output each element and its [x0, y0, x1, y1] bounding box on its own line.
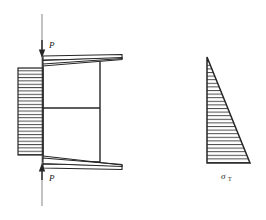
load-arrow-top: [39, 40, 45, 58]
top-stress-wedge: [43, 55, 122, 67]
bottom-stress-wedge: [43, 156, 122, 170]
triangular-stress-distribution: [205, 55, 255, 167]
stress-label-sigma-t: σ T: [221, 171, 232, 182]
stress-diagram-svg: P P σ T: [0, 0, 266, 220]
sigma-symbol: σ: [221, 171, 226, 181]
uniform-stress-block: [18, 68, 43, 155]
sigma-subscript: T: [228, 176, 232, 182]
member-body: [43, 58, 100, 162]
left-diagram-group: P P: [18, 14, 122, 206]
right-diagram-group: σ T: [205, 55, 255, 182]
figure-canvas: P P σ T: [0, 0, 266, 220]
load-label-top: P: [48, 40, 55, 50]
load-label-bottom: P: [48, 173, 55, 183]
